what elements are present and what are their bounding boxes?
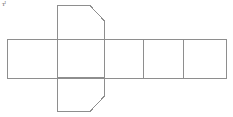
horizontal-band-outline — [8, 40, 227, 79]
net-diagram-figure: ᴛᴵ — [0, 0, 233, 117]
net-outline-group — [8, 6, 227, 112]
bevelled-vertical-face-outline — [58, 6, 105, 112]
net-diagram-canvas — [0, 0, 233, 117]
